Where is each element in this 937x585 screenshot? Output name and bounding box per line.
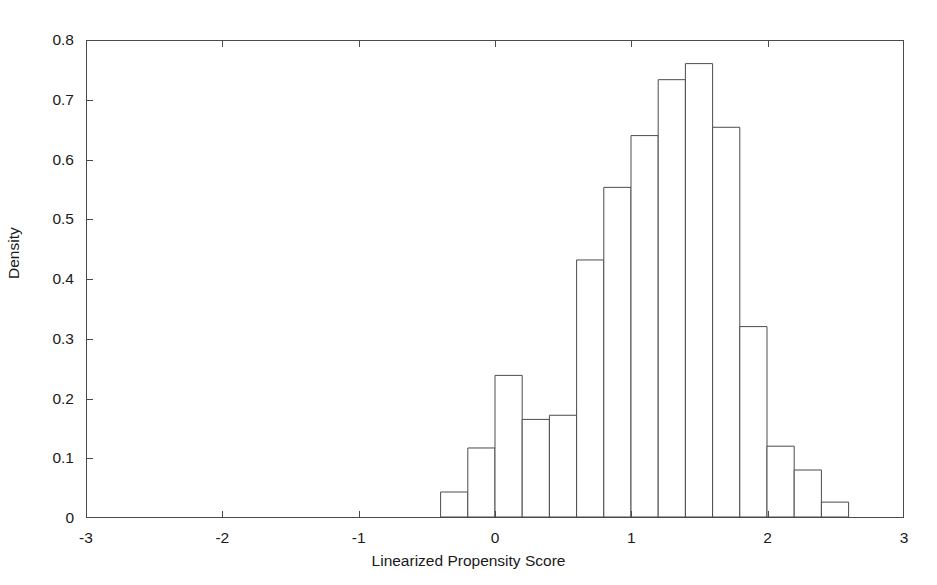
histogram-figure: 00.10.20.30.40.50.60.70.8 -3-2-10123 Den… bbox=[0, 0, 937, 585]
histogram-bar bbox=[549, 415, 576, 517]
histogram-bars bbox=[87, 41, 903, 517]
y-axis-tick-label: 0.2 bbox=[34, 391, 74, 407]
y-axis-tick-label: 0.8 bbox=[34, 32, 74, 48]
y-axis-tick-label: 0.3 bbox=[34, 331, 74, 347]
x-axis-title: Linearized Propensity Score bbox=[0, 553, 937, 569]
histogram-bar bbox=[794, 470, 821, 517]
x-axis-tick-label: 3 bbox=[884, 530, 924, 546]
y-axis-title: Density bbox=[6, 227, 22, 279]
histogram-bar bbox=[713, 127, 740, 517]
histogram-bar bbox=[522, 419, 549, 517]
histogram-bar bbox=[685, 64, 712, 517]
y-axis-tick-label: 0.7 bbox=[34, 92, 74, 108]
y-axis-tick-label: 0.4 bbox=[34, 271, 74, 287]
histogram-bar bbox=[821, 502, 848, 517]
y-axis-tick-label: 0.6 bbox=[34, 152, 74, 168]
y-axis-tick-label: 0.1 bbox=[34, 450, 74, 466]
x-axis-tick-label: -3 bbox=[66, 530, 106, 546]
x-axis-tick-label: 2 bbox=[748, 530, 788, 546]
histogram-bar bbox=[495, 375, 522, 517]
x-axis-tick-label: 1 bbox=[611, 530, 651, 546]
histogram-bar bbox=[441, 492, 468, 517]
histogram-bar bbox=[631, 136, 658, 517]
histogram-bar bbox=[604, 187, 631, 517]
y-axis-tick-label: 0 bbox=[34, 510, 74, 526]
histogram-bar bbox=[740, 327, 767, 517]
x-axis-tick-label: -2 bbox=[202, 530, 242, 546]
histogram-bar bbox=[577, 260, 604, 517]
y-axis-tick-label: 0.5 bbox=[34, 211, 74, 227]
histogram-bar bbox=[767, 446, 794, 517]
x-axis-tick-label: 0 bbox=[475, 530, 515, 546]
histogram-bar bbox=[468, 448, 495, 517]
histogram-bar bbox=[658, 80, 685, 517]
x-axis-tick-label: -1 bbox=[339, 530, 379, 546]
plot-area bbox=[86, 40, 904, 518]
